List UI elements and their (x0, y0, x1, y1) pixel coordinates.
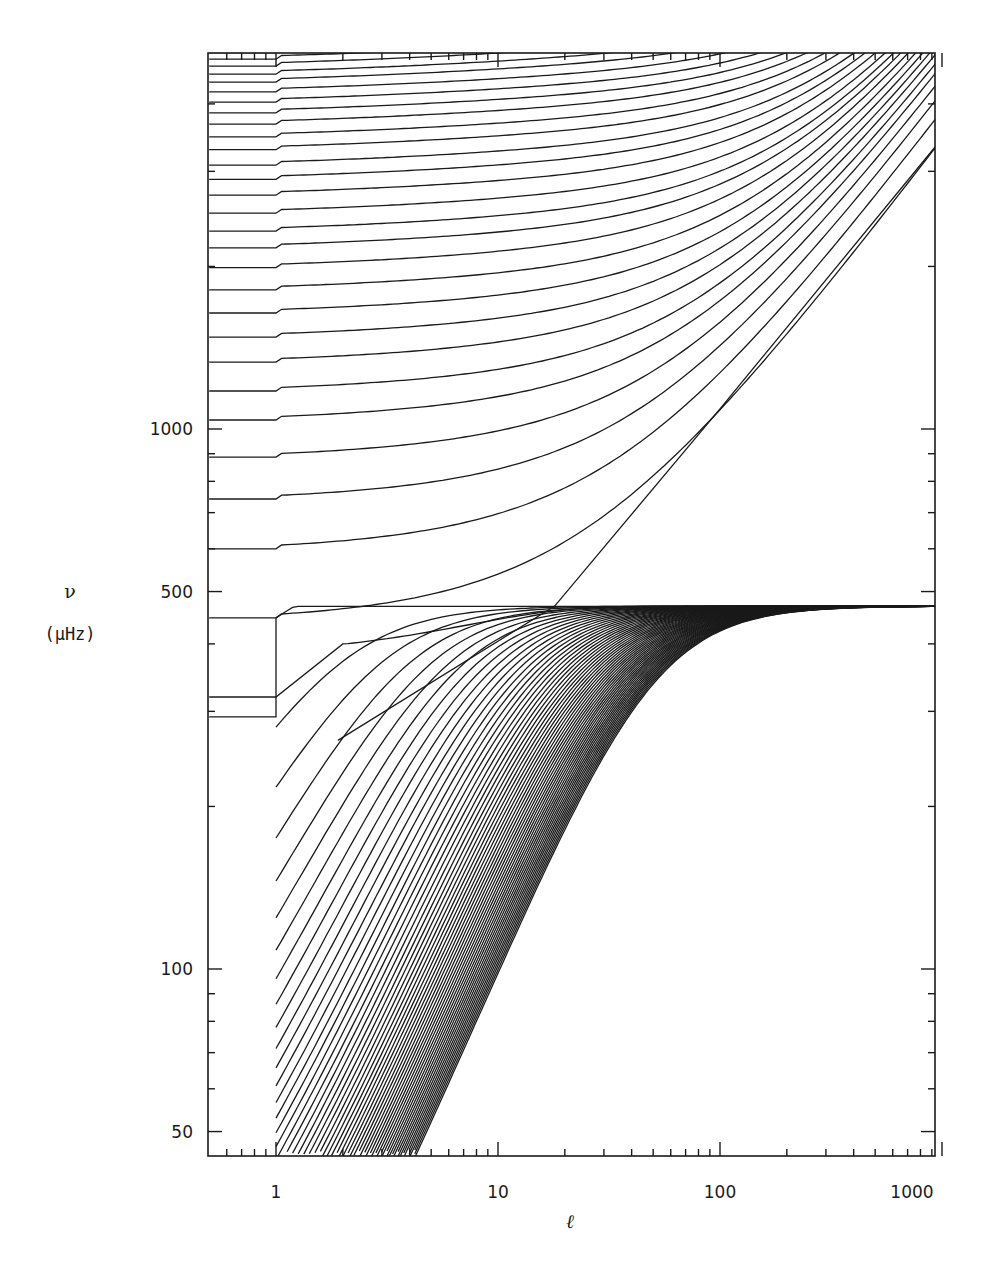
p-mode-curve (209, 46, 864, 166)
x-tick-label: 100 (704, 1182, 736, 1202)
p-mode-curve (209, 47, 892, 214)
l-nu-diagram: 1101001000501005001000 ν (μHz) ℓ (0, 0, 993, 1278)
g-mode-curve (365, 606, 953, 1158)
y-axis-unit: (μHz) (44, 624, 95, 644)
p-mode-curve (209, 45, 875, 180)
g-mode-curve (382, 606, 954, 1152)
p-mode-curve (209, 43, 842, 137)
p-mode-curve (209, 43, 631, 66)
p-mode-curve (209, 49, 947, 391)
g-mode-curve (404, 606, 953, 1153)
p-mode-curve (209, 43, 764, 92)
y-tick-label: 1000 (150, 419, 193, 439)
y-tick-label: 50 (171, 1122, 193, 1142)
p-mode-curve (209, 78, 953, 499)
g-mode-curve (398, 606, 953, 1160)
plot-frame (208, 53, 935, 1156)
mode-curves (209, 43, 953, 1161)
g-mode-curve (387, 606, 953, 1161)
y-tick-label: 500 (161, 582, 193, 602)
g-mode-curve (393, 606, 954, 1154)
x-tick-label: 1 (271, 1182, 282, 1202)
y-axis-title: ν (64, 580, 76, 602)
y-tick-label: 100 (161, 959, 193, 979)
x-tick-label: 1000 (890, 1182, 933, 1202)
g-mode-curve (415, 606, 953, 1157)
p-mode-curve (209, 44, 903, 231)
g-mode-curve (370, 606, 953, 1159)
g-mode-curve (376, 606, 953, 1158)
g-mode-curve (387, 606, 953, 1156)
p-mode-curve (209, 51, 953, 420)
x-axis-title: ℓ (566, 1210, 574, 1232)
p-mode-curve (209, 96, 953, 548)
g-mode-curve (409, 606, 953, 1154)
g-mode-curve (398, 606, 953, 1156)
g-mode-curve (376, 606, 953, 1153)
x-tick-label: 10 (487, 1182, 509, 1202)
p-mode-curve (209, 43, 442, 53)
g-mode-curve (409, 606, 953, 1158)
p-mode-curve (209, 44, 825, 124)
